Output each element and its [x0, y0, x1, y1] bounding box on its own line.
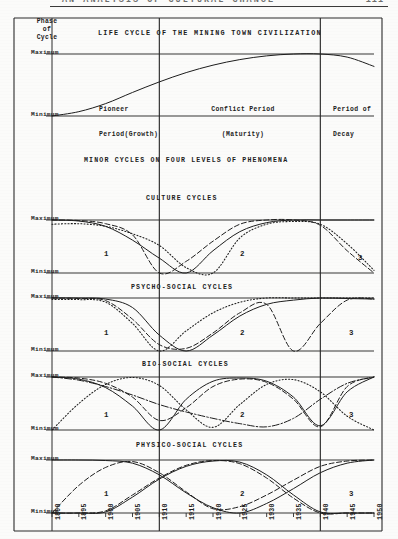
running-head: AN ANALYSIS OF CULTURAL CHANGE 111 [0, 0, 398, 12]
curve-psycho-dashed [52, 298, 374, 351]
curve-bio-dashdot [52, 377, 374, 427]
curve-physico-solid-2 [52, 460, 374, 513]
plot-canvas [0, 12, 398, 539]
curve-culture-dashed [52, 219, 374, 274]
curve-bio-dashed [52, 377, 374, 427]
header-rule [50, 6, 388, 7]
curve-civilization-life-cycle [52, 54, 374, 116]
curve-psycho-solid [52, 298, 374, 351]
figure-body: Phase of Cycle LIFE CYCLE OF THE MINING … [0, 12, 398, 539]
curve-physico-dashed [52, 460, 374, 513]
page-number: 111 [366, 0, 384, 5]
curve-layer [52, 54, 374, 514]
curve-culture-solid [52, 220, 374, 273]
curve-physico-dashed-2 [52, 460, 374, 514]
figure-page: AN ANALYSIS OF CULTURAL CHANGE 111 Phase… [0, 0, 398, 539]
curve-psycho-dotted [52, 298, 374, 351]
grid-layer [14, 18, 382, 531]
running-head-title: AN ANALYSIS OF CULTURAL CHANGE [62, 0, 275, 5]
curve-physico-solid [52, 460, 374, 513]
